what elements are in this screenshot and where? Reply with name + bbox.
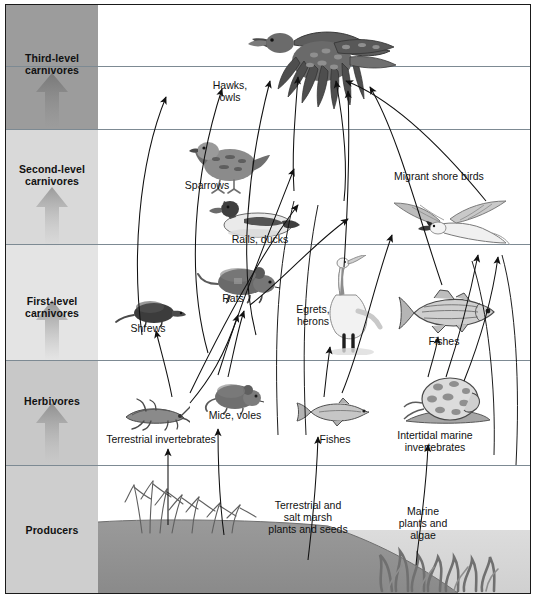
figure-frame: Third-level carnivores Second-level carn… (5, 4, 531, 594)
arrow-shrews-to-hawks-owls (137, 97, 166, 335)
label-terrestrial-invertebrates: Terrestrial invertebrates (100, 433, 222, 445)
link-line-right-outer (502, 255, 517, 465)
label-intertidal-marine-invertebrates: Intertidal marine invertebrates (374, 429, 496, 453)
arrow-rails-ducks-to-hawks-owls (336, 81, 346, 201)
label-terrestrial-salt-marsh-plants: Terrestrial and salt marsh plants and se… (256, 499, 360, 536)
label-fishes-carnivore: Fishes (414, 335, 474, 347)
band-label-herbivores: Herbivores (6, 395, 98, 407)
label-sparrows: Sparrows (172, 179, 242, 191)
arrow-rats-to-hawks-owls (195, 89, 222, 353)
label-fishes-herbivore: Fishes (306, 433, 364, 445)
arrow-intertidal-to-rails-ducks (464, 257, 498, 381)
label-egrets-herons: Egrets, herons (284, 303, 342, 327)
band-label-producers: Producers (6, 524, 98, 536)
label-mice-voles: Mice, voles (202, 409, 268, 421)
arrow-mice-voles-to-sparrows (218, 169, 294, 375)
arrow-fishes-herbivore-to-rails-ducks (342, 235, 392, 393)
food-web-figure: Third-level carnivores Second-level carn… (0, 0, 537, 599)
label-rats: Rats (206, 292, 260, 304)
band-label-first-level-carnivores: First-level carnivores (6, 295, 98, 320)
food-web-plate: Hawks, owls Sparrows Rails, ducks Migran… (98, 5, 530, 593)
arrow-terrestrial-invertebrates-to-rats (190, 315, 238, 403)
link-line-right-inner (472, 261, 494, 455)
arrow-intertidal-to-migrant-shore-birds (446, 255, 478, 377)
arrow-terrestrial-invertebrates-to-shrews (156, 331, 172, 397)
label-marine-plants-algae: Marine plants and algae (386, 505, 460, 542)
band-label-second-level-carnivores: Second-level carnivores (6, 163, 98, 188)
band-label-third-level-carnivores: Third-level carnivores (6, 52, 98, 77)
energy-flow-arrow-first-to-second (6, 187, 98, 247)
label-rails-ducks: Rails, ducks (220, 233, 300, 245)
label-migrant-shore-birds: Migrant shore birds (394, 170, 526, 182)
arrow-sparrows-to-hawks-owls-direct (293, 77, 298, 191)
label-shrews: Shrews (116, 322, 180, 334)
label-hawks-owls: Hawks, owls (200, 79, 260, 103)
arrow-fishes-carnivore-to-hawks-owls (370, 87, 442, 285)
arrow-migrant-shore-birds-to-hawks-owls (346, 81, 486, 201)
arrow-egrets-herons-to-hawks-owls (344, 91, 349, 267)
energy-flow-arrow-second-to-third (6, 73, 98, 128)
arrow-fishes-herbivore-to-egrets-herons (324, 347, 330, 397)
arrow-rats-to-rails-ducks (250, 219, 348, 305)
energy-flow-arrow-producers-to-herbivores (6, 403, 98, 463)
